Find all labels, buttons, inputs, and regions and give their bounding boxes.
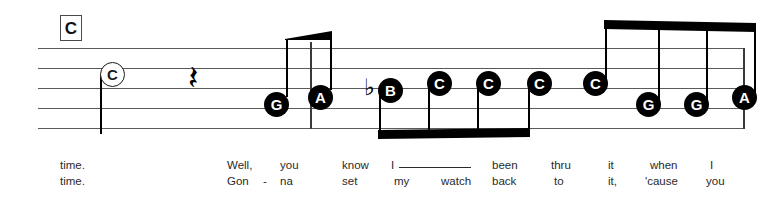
sheet-music-excerpt: C C 𝄽 G A ♭ xyxy=(0,0,779,200)
beam-group-1 xyxy=(285,31,332,40)
lyric-v2-set: set xyxy=(342,176,357,188)
notehead-label: C xyxy=(434,76,445,91)
staff-line-1 xyxy=(38,48,745,49)
lyric-v2-hyphen: - xyxy=(263,176,267,188)
lyric-v1-when: when xyxy=(650,160,678,172)
lyric-v1-thru: thru xyxy=(551,160,571,172)
notehead-label: A xyxy=(315,90,326,105)
lyric-v1-time: time. xyxy=(60,160,85,172)
notehead-c-2: C xyxy=(427,71,452,96)
lyric-v1-know: know xyxy=(342,160,369,172)
lyric-v1-it: it xyxy=(608,160,614,172)
notehead-b-flat: B xyxy=(378,78,403,103)
staff-line-2 xyxy=(38,68,745,69)
lyric-v2-my: my xyxy=(394,176,409,188)
notehead-c-1: C xyxy=(100,62,125,87)
notehead-label: C xyxy=(483,76,494,91)
staff-line-5 xyxy=(38,128,745,129)
notehead-label: C xyxy=(107,67,118,82)
stem-note-10 xyxy=(706,26,708,105)
lyric-v1-been: been xyxy=(492,160,518,172)
chord-symbol-box: C xyxy=(60,15,82,41)
stem-note-3 xyxy=(330,32,332,90)
stem-note-2 xyxy=(286,39,288,97)
notehead-label: G xyxy=(271,97,283,112)
notehead-c-5: C xyxy=(583,71,608,96)
lyric-v1-you: you xyxy=(280,160,299,172)
notehead-c-3: C xyxy=(476,71,501,96)
lyric-v2-watch: watch xyxy=(441,176,471,188)
rest-glyph: 𝄽 xyxy=(188,57,198,97)
melisma-line xyxy=(399,167,471,168)
lyric-v2-time: time. xyxy=(60,176,85,188)
stem-note-9 xyxy=(658,24,660,105)
notehead-label: A xyxy=(739,90,750,105)
lyric-v1-i2: I xyxy=(710,160,713,172)
beam-group-2 xyxy=(378,128,530,139)
notehead-g-2: G xyxy=(636,92,661,117)
notehead-label: G xyxy=(643,97,655,112)
notehead-c-4: C xyxy=(527,71,552,96)
notehead-a-2: A xyxy=(732,85,757,110)
barline-middle xyxy=(310,42,312,129)
notehead-label: C xyxy=(590,76,601,91)
lyric-v1-well: Well, xyxy=(227,160,252,172)
notehead-g-3: G xyxy=(684,92,709,117)
lyric-v2-cause: 'cause xyxy=(645,176,678,188)
lyric-v2-na: na xyxy=(280,176,293,188)
notehead-label: C xyxy=(534,76,545,91)
stem-note-1 xyxy=(100,74,102,134)
notehead-a-1: A xyxy=(308,85,333,110)
quarter-rest: 𝄽 xyxy=(188,60,198,94)
beam-group-3 xyxy=(604,20,756,32)
lyric-v2-back: back xyxy=(492,176,516,188)
lyric-v1-i: I xyxy=(391,160,394,172)
notehead-label: B xyxy=(385,83,396,98)
flat-glyph: ♭ xyxy=(364,74,375,100)
lyric-v2-gon: Gon xyxy=(227,176,249,188)
notehead-label: G xyxy=(691,97,703,112)
notehead-g-1: G xyxy=(264,92,289,117)
chord-symbol-label: C xyxy=(65,20,77,37)
flat-accidental: ♭ xyxy=(364,76,375,99)
lyric-v2-to: to xyxy=(554,176,564,188)
lyric-v2-it: it, xyxy=(608,176,617,188)
stem-note-11 xyxy=(754,28,756,98)
music-staff: C 𝄽 G A ♭ B C C xyxy=(38,48,745,128)
lyric-v2-you: you xyxy=(706,176,725,188)
stem-note-8 xyxy=(605,22,607,84)
